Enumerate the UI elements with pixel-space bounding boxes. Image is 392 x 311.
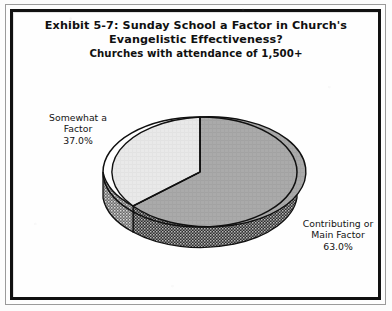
pie-label-contributing: Contributing or Main Factor 63.0% [288, 218, 388, 252]
pie-chart-figure: Exhibit 5-7: Sunday School a Factor in C… [0, 0, 392, 311]
pie-label-somewhat: Somewhat a Factor 37.0% [24, 112, 132, 146]
pie-label-somewhat-name-line-2: Factor [64, 123, 92, 134]
pie-label-somewhat-name-line-1: Somewhat a [49, 112, 107, 123]
pie-label-contributing-name-line-1: Contributing or [303, 218, 373, 229]
pie-chart-graphic [0, 0, 392, 311]
pie-label-contributing-value: 63.0% [288, 241, 388, 252]
pie-label-somewhat-value: 37.0% [24, 135, 132, 146]
pie-label-contributing-name-line-2: Main Factor [311, 229, 365, 240]
chart-plot-area: Somewhat a Factor 37.0% Contributing or … [0, 0, 392, 311]
